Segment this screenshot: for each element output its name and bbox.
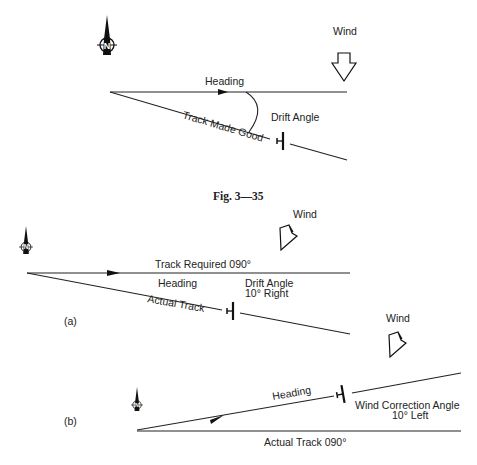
drift-angle-label: Drift Angle: [271, 111, 320, 123]
figure-caption: Fig. 3—35: [213, 190, 264, 203]
heading-label: Heading: [158, 277, 197, 289]
actual-track-label: Actual Track 090°: [264, 436, 346, 448]
panel-label-a: (a): [64, 315, 77, 327]
diagram-a: Wind Track Required 090° Heading Actual …: [19, 208, 350, 334]
wind-arrow-icon: [389, 332, 406, 357]
heading-line: [137, 396, 334, 430]
direction-arrowhead-icon: [107, 270, 120, 276]
wca-value: 10° Left: [392, 409, 428, 421]
north-compass-icon: [97, 15, 117, 55]
heading-label: Heading: [205, 75, 244, 87]
wind-arrow-icon: [332, 53, 356, 81]
north-compass-icon: [19, 226, 33, 254]
drift-angle-value: 10° Right: [245, 287, 288, 299]
wind-arrow-icon: [280, 225, 297, 250]
diagram-b: Wind Heading Actual Track 090° Wind Corr…: [64, 312, 461, 448]
wind-label: Wind: [333, 25, 357, 37]
panel-label-b: (b): [64, 415, 77, 427]
drift-diagram: N Wind Heading Drift Angle Track Made Go…: [0, 0, 477, 465]
track-required-label: Track Required 090°: [155, 258, 251, 270]
aircraft-icon: [336, 385, 345, 404]
aircraft-icon: [227, 302, 233, 320]
aircraft-icon: [277, 132, 283, 150]
drift-angle-arc: [246, 92, 258, 132]
actual-track-label: Actual Track: [147, 292, 207, 314]
top-diagram: Wind Heading Drift Angle Track Made Good…: [97, 15, 357, 203]
wind-label: Wind: [386, 312, 410, 324]
wind-label: Wind: [293, 208, 317, 220]
direction-arrowhead-icon: [218, 89, 228, 95]
north-compass-icon: [131, 387, 143, 411]
heading-label: Heading: [271, 383, 312, 402]
